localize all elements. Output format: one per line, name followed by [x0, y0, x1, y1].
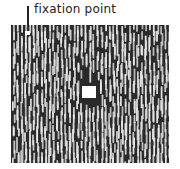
fixation-label: fixation point — [34, 2, 116, 16]
texture-field — [11, 25, 169, 163]
texture-panel — [11, 25, 169, 163]
fixation-dot — [25, 31, 30, 35]
target-square — [82, 86, 96, 98]
